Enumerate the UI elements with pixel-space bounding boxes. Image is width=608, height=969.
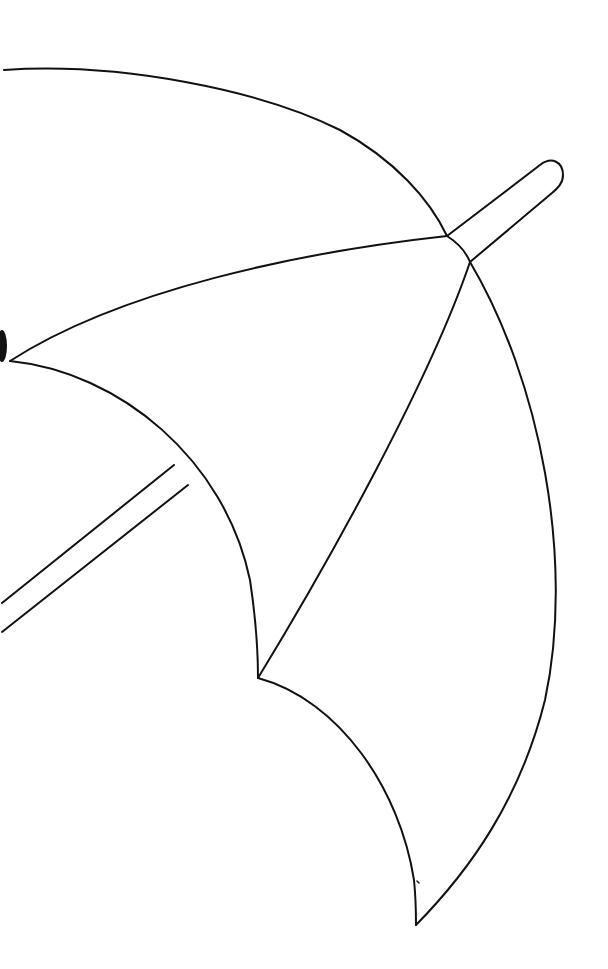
tip-joint (447, 236, 470, 262)
umbrella-drawing (0, 0, 608, 969)
shaft-upper-line (2, 465, 174, 603)
handle-tube (447, 161, 563, 262)
shaft-lower-line (2, 485, 188, 632)
canopy-right-edge (416, 262, 556, 925)
rib-left (10, 236, 447, 361)
rib-middle (258, 262, 470, 678)
stray-mark (417, 881, 419, 883)
scallop-left (10, 361, 258, 678)
canopy-top-edge (4, 69, 447, 236)
edge-smudge (0, 330, 7, 362)
scallop-lower (258, 678, 416, 925)
